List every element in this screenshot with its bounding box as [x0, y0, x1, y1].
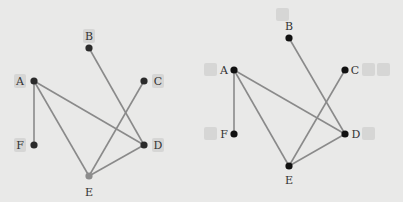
node-label-C: C: [351, 64, 359, 77]
right-graph: ABCDEF: [0, 0, 403, 202]
node-A[interactable]: [230, 66, 237, 73]
node-D[interactable]: [341, 130, 348, 137]
edge-C-E: [289, 70, 345, 166]
node-E[interactable]: [285, 162, 292, 169]
node-label-A: A: [219, 64, 229, 77]
edge-A-D: [234, 70, 345, 134]
node-C[interactable]: [341, 66, 348, 73]
edge-B-D: [289, 38, 345, 134]
node-label-E: E: [285, 174, 293, 187]
node-label-F: F: [220, 128, 228, 141]
edge-A-E: [234, 70, 289, 166]
node-F[interactable]: [230, 130, 237, 137]
node-label-B: B: [285, 20, 293, 33]
empty-label-box: [362, 63, 375, 76]
node-label-D: D: [352, 128, 361, 141]
diagram-canvas: ABCDEF ABCDEF: [0, 0, 403, 202]
empty-label-box: [204, 127, 217, 140]
empty-label-box: [204, 63, 217, 76]
empty-label-box: [362, 127, 375, 140]
empty-label-box: [377, 63, 390, 76]
edge-D-E: [289, 134, 345, 166]
node-B[interactable]: [285, 34, 292, 41]
